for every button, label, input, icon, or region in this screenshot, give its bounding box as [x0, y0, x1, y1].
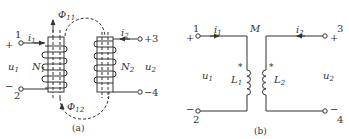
b-terminal-2-label: 2 — [193, 114, 199, 125]
a-voltage-1: u1 — [8, 61, 19, 74]
a-flux-11: Φ11 — [58, 9, 75, 22]
terminal-4 — [138, 90, 142, 94]
terminal-1 — [19, 41, 23, 45]
b-dot-l1: * — [238, 62, 243, 72]
b-terminal-4 — [323, 109, 327, 113]
a-turns-2: N2 — [120, 61, 135, 74]
a-flux-12: Φ12 — [67, 101, 85, 114]
b-mutual-label: M — [249, 23, 261, 34]
inductor-l2 — [262, 70, 266, 95]
a-terminal-3-label: 3 — [152, 33, 158, 44]
inductor-l1 — [247, 70, 251, 95]
b-voltage-1: u1 — [202, 70, 213, 83]
a-minus-2: − — [5, 81, 13, 92]
b-terminal-4-label: 4 — [337, 114, 343, 125]
b-current-2: i2 — [296, 24, 304, 37]
b-voltage-2: u2 — [323, 70, 334, 83]
a-plus-1: + — [5, 39, 13, 50]
b-inductor-1-label: L1 — [230, 74, 242, 87]
b-terminal-1 — [196, 34, 200, 38]
b-terminal-3 — [323, 34, 327, 38]
a-caption: (a) — [72, 123, 84, 133]
coupled-inductor-figure: + 1 − 2 + 3 − 4 i1 i2 u1 u2 N1 N2 Φ11 Φ1… — [0, 0, 349, 139]
a-terminal-2-label: 2 — [14, 90, 20, 101]
b-inductor-2-label: L2 — [273, 74, 286, 87]
a-voltage-2: u2 — [145, 61, 156, 74]
figure-b — [196, 34, 327, 113]
a-turns-1: N1 — [31, 61, 45, 74]
a-terminal-1-label: 1 — [15, 29, 21, 40]
b-terminal-1-label: 1 — [193, 23, 199, 34]
a-terminal-4-label: 4 — [152, 87, 158, 98]
a-current-2: i2 — [121, 27, 129, 40]
b-dot-l2: * — [269, 62, 274, 72]
b-caption: (b) — [254, 126, 267, 136]
b-current-1: i1 — [214, 24, 222, 37]
terminal-3 — [138, 37, 142, 41]
b-terminal-3-label: 3 — [337, 23, 343, 34]
b-terminal-2 — [196, 109, 200, 113]
diagram-canvas: + 1 − 2 + 3 − 4 i1 i2 u1 u2 N1 N2 Φ11 Φ1… — [0, 0, 349, 139]
